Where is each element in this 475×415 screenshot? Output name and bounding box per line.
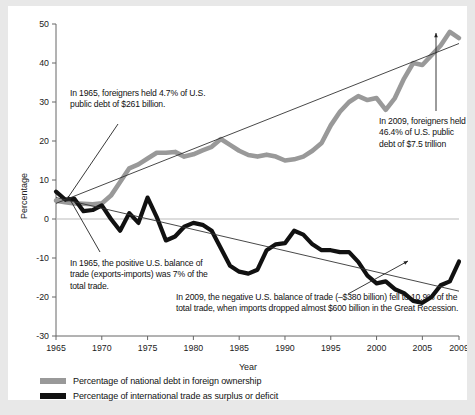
chart-legend: Percentage of national debt in foreign o… [40, 374, 460, 404]
trendline-group [56, 44, 459, 292]
legend-label-trade: Percentage of international trade as sur… [73, 391, 278, 401]
chart-figure: 50403020100-10-20-3019651970197519801985… [0, 0, 475, 415]
x-tick-label: 2009 [449, 343, 467, 353]
y-tick-label: -10 [36, 253, 49, 263]
annotation-trade-1965: In 1965, the positive U.S. balance of tr… [70, 258, 220, 292]
x-tick-label: 1965 [46, 343, 66, 353]
x-tick-label: 1980 [184, 343, 204, 353]
annotation-debt-2009: In 2009, foreigners held 46.4% of U.S. p… [379, 116, 471, 150]
y-axis-title: Percentage [19, 161, 29, 231]
chart-plot-area: 50403020100-10-20-3019651970197519801985… [8, 6, 467, 400]
x-tick-label: 1970 [92, 343, 112, 353]
x-tick-label: 1975 [138, 343, 158, 353]
x-axis-title: Year [198, 362, 298, 372]
x-tick-label: 1990 [275, 343, 295, 353]
y-tick-label: 0 [44, 214, 49, 224]
legend-label-debt: Percentage of national debt in foreign o… [73, 376, 261, 386]
y-tick-label: -30 [36, 331, 49, 341]
legend-item: Percentage of international trade as sur… [40, 389, 460, 403]
y-tick-label: 50 [39, 19, 49, 29]
annotation-leaders [65, 33, 438, 294]
y-tick-label: -20 [36, 292, 49, 302]
leader-debt-2009-arrowhead [434, 33, 438, 37]
legend-swatch-trade [40, 393, 66, 399]
leader-debt-1965 [65, 124, 118, 202]
y-tick-label: 30 [39, 97, 49, 107]
x-tick-label: 2000 [367, 343, 387, 353]
y-tick-label: 10 [39, 175, 49, 185]
x-tick-label: 1995 [321, 343, 341, 353]
annotation-trade-2009: In 2009, the negative U.S. balance of tr… [176, 292, 466, 315]
x-tick-label: 2005 [413, 343, 433, 353]
chart-card: 50403020100-10-20-3019651970197519801985… [8, 6, 467, 400]
y-tick-label: 40 [39, 58, 49, 68]
x-tick-label: 1985 [229, 343, 249, 353]
legend-item: Percentage of national debt in foreign o… [40, 374, 460, 388]
legend-swatch-debt [40, 378, 66, 384]
y-tick-label: 20 [39, 136, 49, 146]
annotation-debt-1965: In 1965, foreigners held 4.7% of U.S. pu… [70, 88, 222, 111]
